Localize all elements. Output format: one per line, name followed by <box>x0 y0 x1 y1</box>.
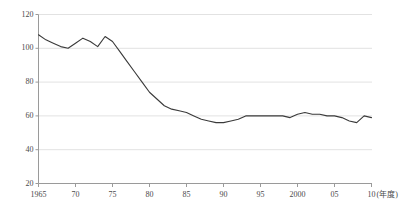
y-axis-tick-label: 100 <box>10 44 34 52</box>
gridlines-group <box>39 15 373 150</box>
line-chart: 12010080604020 196570758085909520000510 … <box>0 0 406 209</box>
x-axis-tick-label: 70 <box>56 191 96 199</box>
x-axis-tick-label: 90 <box>204 191 244 199</box>
x-tick-marks-group <box>39 184 372 188</box>
axes-group <box>39 15 373 184</box>
y-axis-tick-label: 20 <box>10 180 34 188</box>
y-axis-tick-label: 60 <box>10 112 34 120</box>
y-axis-tick-label: 80 <box>10 78 34 86</box>
x-axis-tick-label: 80 <box>130 191 170 199</box>
x-axis-tick-label: 95 <box>241 191 281 199</box>
x-axis-tick-label: 1965 <box>19 191 59 199</box>
x-axis-tick-label: 75 <box>93 191 133 199</box>
x-axis-tick-label: 05 <box>315 191 355 199</box>
y-axis-tick-label: 40 <box>10 146 34 154</box>
y-axis-tick-label: 120 <box>10 11 34 19</box>
x-axis-tick-label: 2000 <box>278 191 318 199</box>
x-axis-tick-label: 85 <box>167 191 207 199</box>
chart-plot-area <box>0 0 406 209</box>
x-axis-unit-label: (年度) <box>377 191 398 199</box>
